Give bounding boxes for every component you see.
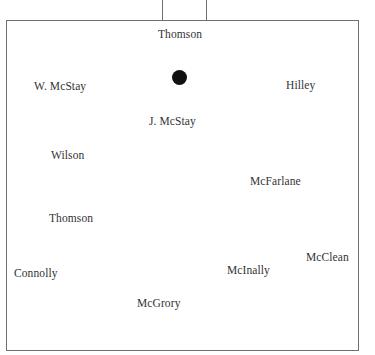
player-label-0: Thomson [158, 27, 202, 41]
player-label-4: Wilson [51, 148, 84, 162]
player-label-3: J. McStay [149, 114, 196, 128]
player-label-5: McFarlane [250, 174, 301, 188]
player-label-2: Hilley [286, 78, 315, 92]
player-label-9: McInally [227, 263, 270, 277]
player-label-10: McGrory [137, 296, 181, 310]
player-label-6: Thomson [49, 211, 93, 225]
player-label-7: McClean [306, 250, 349, 264]
ball-icon [172, 70, 187, 85]
player-label-8: Connolly [14, 266, 58, 280]
goal-posts [162, 0, 207, 21]
player-label-1: W. McStay [34, 79, 86, 93]
